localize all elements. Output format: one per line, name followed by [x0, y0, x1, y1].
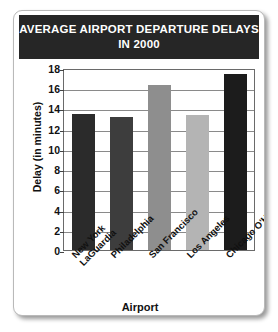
y-axis-tick-label: 8 [54, 165, 60, 175]
y-axis-tick-label: 14 [48, 104, 60, 114]
y-axis-tick-label: 2 [54, 226, 60, 236]
y-axis-tick-label: 6 [54, 185, 60, 195]
y-axis-tick-label: 16 [48, 84, 60, 94]
plot-area-wrapper: Delay (in minutes) 024681012141618 New Y… [14, 61, 265, 316]
y-axis-tick-label: 4 [54, 206, 60, 216]
y-axis-tick-label: 12 [48, 125, 60, 135]
chart-title-line-2: IN 2000 [118, 38, 160, 50]
y-axis-tick-labels: 024681012141618 [38, 69, 60, 251]
chart-title: AVERAGE AIRPORT DEPARTURE DELAYS IN 2000 [19, 22, 259, 52]
y-axis-tick-label: 10 [48, 145, 60, 155]
x-axis-title: Airport [14, 301, 265, 313]
y-axis-tick-label: 18 [48, 64, 60, 74]
chart-title-bar: AVERAGE AIRPORT DEPARTURE DELAYS IN 2000 [19, 15, 259, 59]
chart-card: AVERAGE AIRPORT DEPARTURE DELAYS IN 2000… [13, 10, 265, 316]
chart-title-line-1: AVERAGE AIRPORT DEPARTURE DELAYS [19, 23, 259, 35]
y-axis-tick-label: 0 [54, 246, 60, 256]
